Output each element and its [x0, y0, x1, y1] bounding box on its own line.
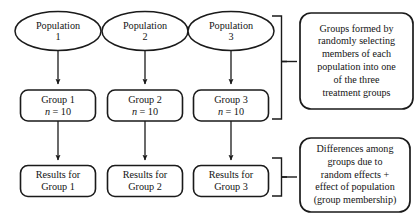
callout-box-groups-formed[interactable]	[300, 13, 413, 109]
group-box-3[interactable]	[194, 90, 269, 121]
population-ellipse-2[interactable]	[102, 12, 188, 51]
diagram-canvas	[0, 0, 419, 219]
group-box-1[interactable]	[21, 90, 96, 121]
population-ellipse-3[interactable]	[188, 12, 274, 51]
population-ellipse-1[interactable]	[15, 12, 101, 51]
results-box-1[interactable]	[21, 166, 96, 197]
results-box-2[interactable]	[108, 166, 183, 197]
results-box-3[interactable]	[194, 166, 269, 197]
callout-box-differences-among[interactable]	[300, 138, 410, 212]
group-box-2[interactable]	[108, 90, 183, 121]
